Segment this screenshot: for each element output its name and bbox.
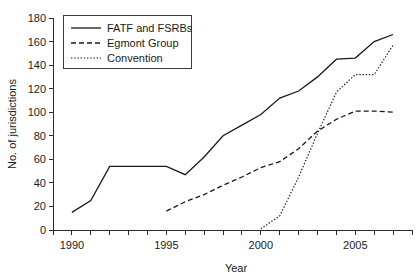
- y-axis-title: No. of jurisdictions: [6, 79, 18, 169]
- legend-label: Egmont Group: [107, 37, 179, 49]
- x-tick-label: 1990: [60, 239, 84, 251]
- y-tick-label: 180: [28, 12, 46, 24]
- y-tick-label: 20: [34, 200, 46, 212]
- y-tick-label: 120: [28, 83, 46, 95]
- legend-label: FATF and FSRBs: [107, 22, 193, 34]
- x-tick-label: 1995: [154, 239, 178, 251]
- series-line-convention: [261, 45, 393, 229]
- y-tick-label: 40: [34, 177, 46, 189]
- y-tick-label: 160: [28, 36, 46, 48]
- y-tick-label: 0: [40, 224, 46, 236]
- x-axis-ticks: 1990199520002005: [53, 230, 412, 251]
- y-tick-label: 100: [28, 106, 46, 118]
- chart-legend: FATF and FSRBsEgmont GroupConvention: [63, 15, 193, 68]
- y-tick-label: 60: [34, 153, 46, 165]
- line-chart: 020406080100120140160180 No. of jurisdic…: [0, 0, 419, 278]
- legend-label: Convention: [107, 52, 163, 64]
- x-tick-label: 2000: [249, 239, 273, 251]
- x-axis-title: Year: [225, 262, 248, 274]
- y-tick-label: 140: [28, 59, 46, 71]
- y-axis-group: 020406080100120140160180 No. of jurisdic…: [6, 12, 53, 236]
- chart-container: 020406080100120140160180 No. of jurisdic…: [0, 0, 419, 278]
- x-axis-group: 1990199520002005 Year: [53, 230, 412, 274]
- x-tick-label: 2005: [343, 239, 367, 251]
- y-axis-ticks: 020406080100120140160180: [28, 12, 53, 236]
- y-tick-label: 80: [34, 130, 46, 142]
